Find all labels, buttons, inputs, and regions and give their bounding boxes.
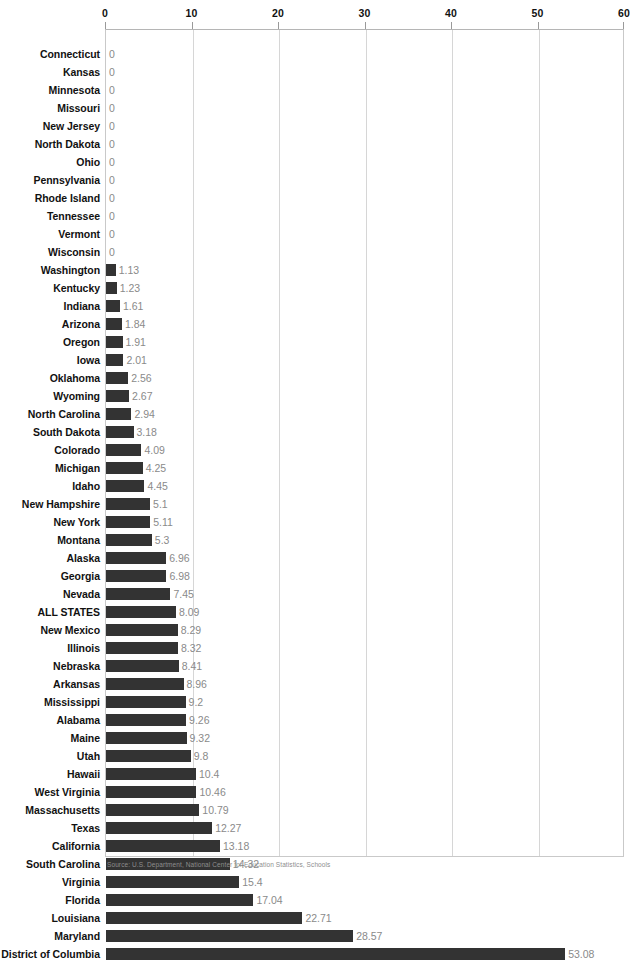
bar[interactable] (106, 444, 141, 456)
bar-row-label: Maine (0, 729, 100, 747)
bar[interactable] (106, 894, 253, 906)
bar[interactable] (106, 552, 166, 564)
bar-row[interactable]: Alaska6.96 (0, 549, 634, 567)
bar[interactable] (106, 372, 128, 384)
bar[interactable] (106, 516, 150, 528)
bar-row[interactable]: Arkansas8.96 (0, 675, 634, 693)
bar[interactable] (106, 408, 131, 420)
bar[interactable] (106, 768, 196, 780)
bar[interactable] (106, 696, 186, 708)
bar[interactable] (106, 714, 186, 726)
bar-row[interactable]: Connecticut0 (0, 45, 634, 63)
bar[interactable] (106, 264, 116, 276)
bar-value-label: 0 (106, 45, 115, 63)
bar[interactable] (106, 642, 178, 654)
bar-row-label: Illinois (0, 639, 100, 657)
bar[interactable] (106, 282, 117, 294)
bar-row[interactable]: ALL STATES8.09 (0, 603, 634, 621)
bar-row[interactable]: Arizona1.84 (0, 315, 634, 333)
bar-row[interactable]: New Mexico8.29 (0, 621, 634, 639)
bar-row[interactable]: Washington1.13 (0, 261, 634, 279)
bar-row[interactable]: Indiana1.61 (0, 297, 634, 315)
bar-row[interactable]: Mississippi9.2 (0, 693, 634, 711)
bar-row[interactable]: Montana5.3 (0, 531, 634, 549)
bar-row[interactable]: Tennessee0 (0, 207, 634, 225)
x-axis-tick-mark (192, 22, 193, 29)
bar[interactable] (106, 822, 212, 834)
bar[interactable] (106, 570, 166, 582)
bar-row[interactable]: Vermont0 (0, 225, 634, 243)
bar[interactable] (106, 588, 170, 600)
bar-row[interactable]: Utah9.8 (0, 747, 634, 765)
x-axis-tick-label: 50 (531, 7, 543, 19)
bar-row[interactable]: Missouri0 (0, 99, 634, 117)
bar-row[interactable]: Massachusetts10.79 (0, 801, 634, 819)
bar[interactable] (106, 750, 191, 762)
bar-row[interactable]: Alabama9.26 (0, 711, 634, 729)
bar-row[interactable]: Pennsylvania0 (0, 171, 634, 189)
bar-row[interactable]: Oregon1.91 (0, 333, 634, 351)
bar-row[interactable]: Rhode Island0 (0, 189, 634, 207)
bar-value-label: 8.29 (178, 621, 201, 639)
bar-row[interactable]: North Dakota0 (0, 135, 634, 153)
bar-row-label: Nebraska (0, 657, 100, 675)
bar-row-label: South Dakota (0, 423, 100, 441)
bar-row[interactable]: Oklahoma2.56 (0, 369, 634, 387)
bar-row[interactable]: North Carolina2.94 (0, 405, 634, 423)
bar[interactable] (106, 354, 123, 366)
bar[interactable] (106, 786, 196, 798)
bar[interactable] (106, 534, 152, 546)
bar-row[interactable]: Virginia15.4 (0, 873, 634, 891)
bar-row[interactable]: Minnesota0 (0, 81, 634, 99)
bar[interactable] (106, 390, 129, 402)
x-axis-tick-label: 40 (445, 7, 457, 19)
bar-row[interactable]: Illinois8.32 (0, 639, 634, 657)
bar-row[interactable]: California13.18 (0, 837, 634, 855)
bar[interactable] (106, 804, 199, 816)
bar[interactable] (106, 336, 123, 348)
bar[interactable] (106, 930, 353, 942)
bar[interactable] (106, 660, 179, 672)
bar-row[interactable]: New York5.11 (0, 513, 634, 531)
bar[interactable] (106, 912, 302, 924)
bar[interactable] (106, 318, 122, 330)
bar[interactable] (106, 678, 184, 690)
bar-row[interactable]: Wyoming2.67 (0, 387, 634, 405)
bar-row[interactable]: Ohio0 (0, 153, 634, 171)
bar[interactable] (106, 948, 565, 960)
bar-row[interactable]: Maine9.32 (0, 729, 634, 747)
bar-row-label: New Hampshire (0, 495, 100, 513)
bar-row[interactable]: Louisiana22.71 (0, 909, 634, 927)
bar-row[interactable]: Colorado4.09 (0, 441, 634, 459)
bar[interactable] (106, 606, 176, 618)
bar[interactable] (106, 498, 150, 510)
bar-row[interactable]: Nebraska8.41 (0, 657, 634, 675)
bar-row[interactable]: Kentucky1.23 (0, 279, 634, 297)
bar[interactable] (106, 462, 143, 474)
bar-row[interactable]: New Jersey0 (0, 117, 634, 135)
bar-row-label: South Carolina (0, 855, 100, 873)
bar[interactable] (106, 732, 187, 744)
bar-row[interactable]: Michigan4.25 (0, 459, 634, 477)
bar[interactable] (106, 480, 144, 492)
bar-row[interactable]: Georgia6.98 (0, 567, 634, 585)
bar-row[interactable]: South Dakota3.18 (0, 423, 634, 441)
bar-row[interactable]: New Hampshire5.1 (0, 495, 634, 513)
bar[interactable] (106, 426, 134, 438)
bar-row[interactable]: Idaho4.45 (0, 477, 634, 495)
bar-row[interactable]: Maryland28.57 (0, 927, 634, 945)
bar[interactable] (106, 624, 178, 636)
bar-row[interactable]: Texas12.27 (0, 819, 634, 837)
bar-row[interactable]: Iowa2.01 (0, 351, 634, 369)
bar[interactable] (106, 876, 239, 888)
bar-value-label: 5.1 (150, 495, 168, 513)
bar-row[interactable]: Wisconsin0 (0, 243, 634, 261)
bar[interactable] (106, 300, 120, 312)
bar-row[interactable]: Kansas0 (0, 63, 634, 81)
bar-row[interactable]: West Virginia10.46 (0, 783, 634, 801)
bar-row[interactable]: District of Columbia53.08 (0, 945, 634, 963)
bar-row[interactable]: Hawaii10.4 (0, 765, 634, 783)
bar-row[interactable]: Florida17.04 (0, 891, 634, 909)
bar-row[interactable]: Nevada7.45 (0, 585, 634, 603)
bar[interactable] (106, 840, 220, 852)
